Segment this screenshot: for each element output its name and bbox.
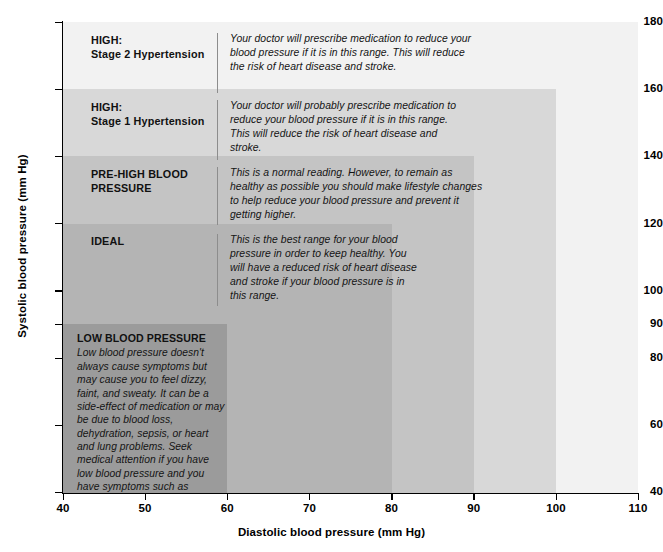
category-ideal-title: IDEAL (77, 233, 217, 249)
y-tick-label-40: 40 (615, 486, 663, 498)
category-low-description: Low blood pressure doesn't always cause … (77, 345, 225, 493)
category-ideal: IDEAL This is the best range for your bl… (77, 233, 557, 306)
x-tick-60 (227, 493, 228, 500)
y-tick-120 (55, 223, 63, 224)
y-tick-label-160: 160 (615, 83, 663, 95)
category-prehigh-description: This is a normal reading. However, to re… (218, 166, 486, 222)
y-axis-line (62, 21, 63, 494)
band-low-remainder-1 (227, 324, 391, 493)
plot-area: HIGH: Stage 2 Hypertension Your doctor w… (63, 22, 638, 493)
x-tick-80 (391, 493, 392, 500)
category-low: LOW BLOOD PRESSURE Low blood pressure do… (77, 332, 225, 493)
y-tick-label-80: 80 (615, 352, 663, 364)
band-low-remainder-4 (556, 324, 638, 493)
category-prehigh-title: PRE-HIGH BLOOD PRESSURE (77, 166, 217, 195)
x-tick-110 (638, 493, 639, 500)
y-tick-160 (55, 89, 63, 90)
y-tick-60 (55, 425, 63, 426)
x-tick-90 (473, 493, 474, 500)
y-axis-title: Systolic blood pressure (mm Hg) (16, 126, 28, 366)
band-prehigh-remainder-outer (556, 156, 638, 223)
x-tick-label-110: 110 (618, 503, 658, 515)
x-tick-70 (309, 493, 310, 500)
y-tick-label-100: 100 (615, 285, 663, 297)
y-tick-90 (55, 324, 63, 325)
band-ideal-remainder-3 (556, 224, 638, 325)
category-prehigh: PRE-HIGH BLOOD PRESSURE This is a normal… (77, 166, 557, 225)
category-stage2-title: HIGH: Stage 2 Hypertension (77, 32, 217, 61)
y-tick-140 (55, 156, 63, 157)
x-tick-50 (145, 493, 146, 500)
x-tick-label-50: 50 (125, 503, 165, 515)
y-tick-100 (55, 290, 63, 291)
y-tick-label-140: 140 (615, 150, 663, 162)
x-tick-label-70: 70 (289, 503, 329, 515)
x-axis-title: Diastolic blood pressure (mm Hg) (0, 526, 663, 538)
y-tick-label-120: 120 (615, 218, 663, 230)
x-tick-40 (63, 493, 64, 500)
band-stage1-remainder (556, 89, 638, 156)
y-tick-label-180: 180 (615, 16, 663, 28)
category-stage2-description: Your doctor will prescribe medication to… (218, 32, 476, 74)
category-stage1: HIGH: Stage 1 Hypertension Your doctor w… (77, 99, 557, 160)
x-tick-label-90: 90 (454, 503, 494, 515)
band-low-remainder-2 (392, 324, 474, 493)
blood-pressure-chart: HIGH: Stage 2 Hypertension Your doctor w… (0, 0, 663, 552)
category-ideal-description: This is the best range for your blood pr… (218, 233, 418, 303)
y-tick-80 (55, 358, 63, 359)
band-low-remainder-3 (474, 324, 556, 493)
x-tick-label-100: 100 (536, 503, 576, 515)
category-stage1-description: Your doctor will probably prescribe medi… (218, 99, 470, 155)
category-low-title: LOW BLOOD PRESSURE (77, 332, 225, 345)
x-tick-label-60: 60 (207, 503, 247, 515)
x-tick-label-80: 80 (372, 503, 412, 515)
x-axis-line (62, 493, 639, 494)
x-tick-100 (556, 493, 557, 500)
y-tick-180 (55, 22, 63, 23)
category-stage1-title: HIGH: Stage 1 Hypertension (77, 99, 217, 128)
category-stage2: HIGH: Stage 2 Hypertension Your doctor w… (77, 32, 557, 93)
x-tick-label-40: 40 (43, 503, 83, 515)
y-tick-label-90: 90 (615, 318, 663, 330)
y-tick-label-60: 60 (615, 419, 663, 431)
